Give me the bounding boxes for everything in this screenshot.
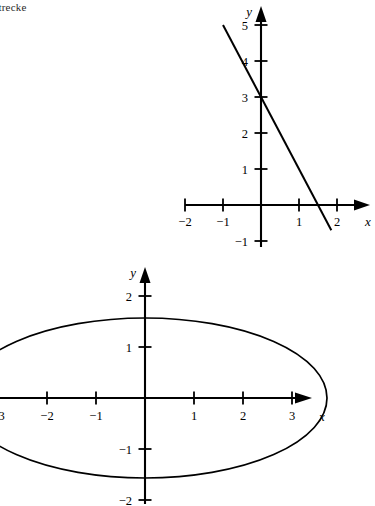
x-ticklabel--1: −1 bbox=[89, 409, 102, 423]
x-ticklabel--1: −1 bbox=[216, 215, 229, 229]
x-axis-arrowhead-icon bbox=[354, 200, 370, 211]
line-graph-figure: −2 −1 1 2 5 4 3 2 1 −1 y x bbox=[178, 0, 375, 255]
y-axis-arrowhead-icon bbox=[256, 6, 267, 22]
ellipse-graph-figure: −3 −2 −1 1 2 3 2 1 −1 −2 y x bbox=[0, 255, 375, 506]
y-ticklabel-2: 2 bbox=[242, 127, 248, 141]
x-ticklabel--3: −3 bbox=[0, 409, 5, 423]
line-graph-y-axis-label: y bbox=[244, 4, 252, 19]
line-graph-x-axis-label: x bbox=[364, 214, 371, 229]
x-ticklabel-1: 1 bbox=[296, 215, 302, 229]
y-ticklabel-1: 1 bbox=[242, 163, 248, 177]
line-series-plot bbox=[223, 25, 331, 230]
ellipse-graph-y-axis-label: y bbox=[128, 265, 136, 280]
y-ticklabel-5: 5 bbox=[242, 19, 248, 33]
x-ticklabel-2: 2 bbox=[334, 215, 340, 229]
y-ticklabel-4: 4 bbox=[242, 55, 249, 69]
x-ticklabel-2: 2 bbox=[240, 409, 246, 423]
y-ticklabel--1: −1 bbox=[119, 443, 132, 457]
x-ticklabel-1: 1 bbox=[191, 409, 197, 423]
corner-caption-text: strecke bbox=[0, 0, 27, 14]
y-ticklabel--1: −1 bbox=[235, 235, 248, 249]
ellipse-graph-x-axis-label: x bbox=[318, 409, 325, 424]
y-ticklabel--2: −2 bbox=[119, 494, 132, 506]
x-ticklabel--2: −2 bbox=[178, 215, 191, 229]
y-ticklabel-1: 1 bbox=[126, 341, 132, 355]
y-ticklabel-3: 3 bbox=[242, 91, 248, 105]
x-axis-arrowhead-icon bbox=[295, 393, 312, 404]
y-ticklabel-2: 2 bbox=[126, 290, 132, 304]
x-ticklabel--2: −2 bbox=[40, 409, 53, 423]
x-ticklabel-3: 3 bbox=[289, 409, 295, 423]
page-canvas: strecke −2 −1 bbox=[0, 0, 375, 506]
y-axis-arrowhead-icon bbox=[140, 267, 151, 283]
